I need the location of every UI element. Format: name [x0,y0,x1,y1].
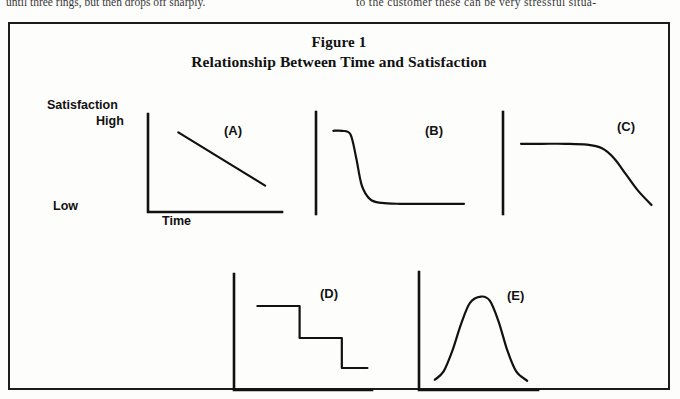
panel-a-curve [178,132,265,185]
panel-b-curve [333,131,464,204]
panel-c-curve [521,144,652,205]
chart-panel-e [412,268,562,398]
page-body-text-left-column: until three rings, but then drops off sh… [6,0,205,8]
panel-letter-d: (D) [320,286,338,301]
figure-caption: Figure 1 Relationship Between Time and S… [10,32,668,73]
panel-letter-e: (E) [507,288,524,303]
figure-border-box: Figure 1 Relationship Between Time and S… [8,22,670,390]
y-axis-tick-low: Low [53,199,78,213]
chart-panel-d [226,272,378,398]
panel-letter-c: (C) [617,119,635,134]
y-axis-title-satisfaction: Satisfaction [47,98,118,112]
panel-a-axes [148,114,282,212]
panel-letter-b: (B) [425,123,443,138]
chart-panel-a [142,112,287,222]
figure-number: Figure 1 [10,32,668,52]
y-axis-tick-high: High [96,114,124,128]
page-body-text-right-column: to the customer these can be very stress… [356,0,596,8]
panel-d-axes [234,274,372,390]
figure-page: until three rings, but then drops off sh… [0,0,680,399]
chart-panel-b [310,110,470,222]
panel-e-curve [435,296,527,380]
figure-title: Relationship Between Time and Satisfacti… [10,52,668,73]
panel-letter-a: (A) [224,123,242,138]
chart-panel-c [497,110,665,222]
panel-d-curve [257,306,367,368]
